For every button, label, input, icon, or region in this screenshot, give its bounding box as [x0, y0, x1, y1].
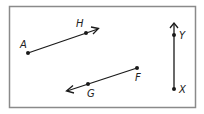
- point-F: [135, 66, 139, 70]
- diagram-frame: [10, 7, 196, 108]
- label-G: G: [87, 88, 95, 99]
- ray-XY: X Y: [170, 23, 187, 95]
- label-A: A: [19, 39, 27, 50]
- point-X: [172, 87, 176, 91]
- ray-AH: A H: [19, 18, 99, 55]
- rays-diagram: A H F G X Y: [0, 0, 204, 114]
- point-H: [84, 31, 88, 35]
- point-A: [26, 51, 30, 55]
- ray-FG: F G: [67, 66, 142, 99]
- label-H: H: [76, 18, 84, 29]
- label-Y: Y: [179, 30, 186, 41]
- point-Y: [172, 33, 176, 37]
- label-X: X: [178, 84, 187, 95]
- label-F: F: [135, 72, 141, 83]
- point-G: [86, 82, 90, 86]
